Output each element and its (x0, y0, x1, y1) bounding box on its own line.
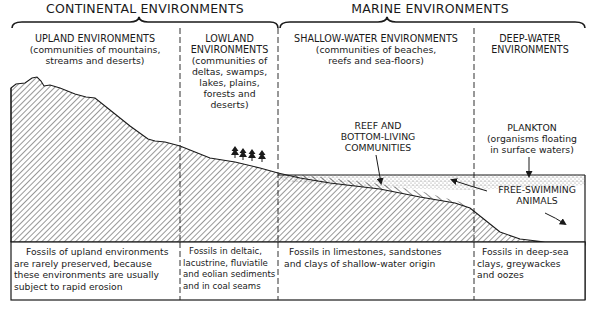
reef-annotation: REEF AND BOTTOM-LIVING COMMUNITIES (318, 120, 438, 153)
free-swimming-line-2: ANIMALS (488, 195, 586, 206)
free-swimming-annotation: FREE-SWIMMING ANIMALS (488, 184, 586, 206)
lowland-fossil-line-3: and eolian sediments (183, 269, 278, 281)
deep-fossil-line-1: Fossils in deep-sea (477, 246, 585, 258)
reef-line-3: COMMUNITIES (318, 142, 438, 153)
shallow-water-zone-label: SHALLOW-WATER ENVIRONMENTS (communities … (280, 33, 472, 66)
deep-fossil-line-2: clays, greywackes (477, 258, 585, 270)
marine-brace (280, 17, 585, 28)
plankton-line-1: PLANKTON (478, 122, 586, 133)
deep-water-zone-label: DEEP-WATER ENVIRONMENTS (476, 33, 584, 55)
plankton-line-2: (organisms floating (478, 133, 586, 144)
upland-fossil-line-2: are rarely preserved, because (14, 258, 178, 270)
lowland-fossil-line-1: Fossils in deltaic, (183, 246, 278, 258)
upland-fossil-line-1: Fossils of upland environments (14, 246, 178, 258)
reef-line-2: BOTTOM-LIVING (318, 131, 438, 142)
continental-header: CONTINENTAL ENVIRONMENTS (30, 3, 260, 14)
lowland-fossils: Fossils in deltaic, lacustrine, fluviati… (183, 246, 278, 292)
lowland-title-2: ENVIRONMENTS (182, 44, 277, 55)
lowland-desc-3: lakes, plains, (182, 77, 277, 88)
lowland-fossil-line-2: lacustrine, fluviatile (183, 258, 278, 270)
shallow-water-desc-2: reefs and sea-floors) (280, 55, 472, 66)
shallow-water-fossils: Fossils in limestones, sandstones and cl… (284, 246, 472, 269)
upland-fossil-line-4: subject to rapid erosion (14, 281, 178, 293)
shallow-fossil-line-2: and clays of shallow-water origin (284, 258, 472, 270)
upland-fossil-line-3: these environments are usually (14, 269, 178, 281)
shallow-water-title: SHALLOW-WATER ENVIRONMENTS (280, 33, 472, 44)
deep-water-title-2: ENVIRONMENTS (476, 44, 584, 55)
lowland-desc-5: deserts) (182, 99, 277, 110)
upland-desc-1: (communities of mountains, (12, 44, 178, 55)
deep-water-title-1: DEEP-WATER (476, 33, 584, 44)
marine-header: MARINE ENVIRONMENTS (330, 3, 530, 14)
free-swimming-line-1: FREE-SWIMMING (488, 184, 586, 195)
plankton-line-3: in surface waters) (478, 144, 586, 155)
shallow-fossil-line-1: Fossils in limestones, sandstones (284, 246, 472, 258)
lowland-fossil-line-4: and in coal seams (183, 281, 278, 293)
deep-water-fossils: Fossils in deep-sea clays, greywackes an… (477, 246, 585, 281)
free-swimming-arrow-right (545, 213, 565, 224)
continental-brace (12, 17, 278, 28)
deep-fossil-line-3: and oozes (477, 269, 585, 281)
lowland-desc-2: deltas, swamps, (182, 66, 277, 77)
tree-icon (231, 146, 266, 162)
shallow-water-desc-1: (communities of beaches, (280, 44, 472, 55)
upland-title: UPLAND ENVIRONMENTS (12, 33, 178, 44)
upland-zone-label: UPLAND ENVIRONMENTS (communities of moun… (12, 33, 178, 66)
lowland-title-1: LOWLAND (182, 33, 277, 44)
lowland-zone-label: LOWLAND ENVIRONMENTS (communities of del… (182, 33, 277, 110)
plankton-annotation: PLANKTON (organisms floating in surface … (478, 122, 586, 155)
upland-desc-2: streams and deserts) (12, 55, 178, 66)
land-profile (11, 77, 585, 245)
upland-fossils: Fossils of upland environments are rarel… (14, 246, 178, 292)
lowland-desc-1: (communities of (182, 55, 277, 66)
lowland-desc-4: forests and (182, 88, 277, 99)
reef-line-1: REEF AND (318, 120, 438, 131)
